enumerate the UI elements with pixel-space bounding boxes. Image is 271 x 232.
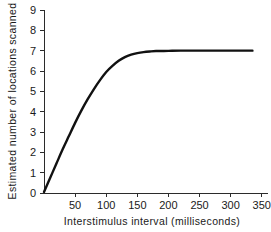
x-tick-label: 300 [221,199,239,211]
chart-figure: 0123456789 50100150200250300350 Intersti… [0,0,271,232]
chart-background [0,0,271,232]
y-tick-label: 9 [30,4,36,16]
x-tick-label: 150 [128,199,146,211]
x-tick-label: 100 [97,199,115,211]
x-axis-title: Interstimulus interval (milliseconds) [64,215,240,227]
y-tick-label: 3 [30,126,36,138]
y-tick-label: 8 [30,24,36,36]
x-tick-label: 200 [159,199,177,211]
plot-canvas: 0123456789 50100150200250300350 Intersti… [0,0,271,232]
y-tick-label: 0 [30,187,36,199]
y-tick-label: 4 [30,106,36,118]
y-tick-label: 5 [30,85,36,97]
x-tick-label: 350 [253,199,271,211]
y-tick-label: 1 [30,167,36,179]
y-tick-label: 2 [30,146,36,158]
x-tick-label: 250 [190,199,208,211]
x-tick-label: 50 [69,199,81,211]
y-tick-label: 6 [30,65,36,77]
y-tick-label: 7 [30,45,36,57]
y-axis-title: Estimated number of locations scanned [6,3,18,200]
